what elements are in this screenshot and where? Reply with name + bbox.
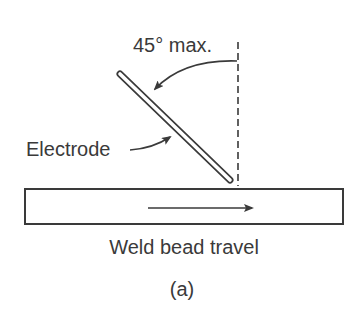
workpiece-plate <box>25 189 343 224</box>
angle-label: 45° max. <box>133 34 212 56</box>
welding-electrode-angle-diagram: 45° max. Electrode Weld bead travel (a) <box>0 0 361 323</box>
electrode-pointer-arrow <box>130 137 170 150</box>
travel-label: Weld bead travel <box>109 236 259 258</box>
angle-arc-arrow <box>155 61 237 89</box>
electrode-rod <box>120 74 230 180</box>
figure-caption: (a) <box>170 278 194 300</box>
electrode-label: Electrode <box>26 138 111 160</box>
